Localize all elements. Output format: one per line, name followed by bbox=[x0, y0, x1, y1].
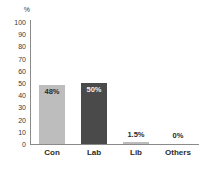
bar-value-label: 1.5% bbox=[123, 131, 149, 139]
bar-column: 50% bbox=[81, 22, 107, 144]
x-axis-category-labels: ConLabLibOthers bbox=[31, 148, 199, 164]
bar-value-label: 0% bbox=[165, 132, 191, 140]
bar-column: 1.5% bbox=[123, 22, 149, 144]
x-category-label: Lib bbox=[115, 148, 157, 158]
y-tick-label: 100 bbox=[0, 19, 26, 26]
bar-series: 48%50%1.5%0% bbox=[31, 22, 199, 144]
y-tick-label: 40 bbox=[0, 92, 26, 99]
bar-chart: % 1009080706050403020100 48%50%1.5%0% Co… bbox=[0, 0, 201, 170]
bar-value-label: 50% bbox=[81, 86, 107, 94]
y-tick-label: 70 bbox=[0, 55, 26, 62]
y-tick-label: 10 bbox=[0, 128, 26, 135]
y-tick-label: 30 bbox=[0, 104, 26, 111]
bar-column: 48% bbox=[39, 22, 65, 144]
x-axis-line bbox=[30, 144, 199, 145]
x-category-label: Con bbox=[31, 148, 73, 158]
y-tick-label: 20 bbox=[0, 116, 26, 123]
x-category-label: Lab bbox=[73, 148, 115, 158]
bar bbox=[123, 142, 149, 144]
y-tick-label: 0 bbox=[0, 141, 26, 148]
y-tick-label: 80 bbox=[0, 43, 26, 50]
y-tick-label: 60 bbox=[0, 67, 26, 74]
bar-value-label: 48% bbox=[39, 88, 65, 96]
y-axis-tick-labels: 1009080706050403020100 bbox=[0, 0, 28, 170]
y-tick-label: 50 bbox=[0, 80, 26, 87]
bar-column: 0% bbox=[165, 22, 191, 144]
x-category-label: Others bbox=[157, 148, 199, 158]
y-tick-label: 90 bbox=[0, 31, 26, 38]
